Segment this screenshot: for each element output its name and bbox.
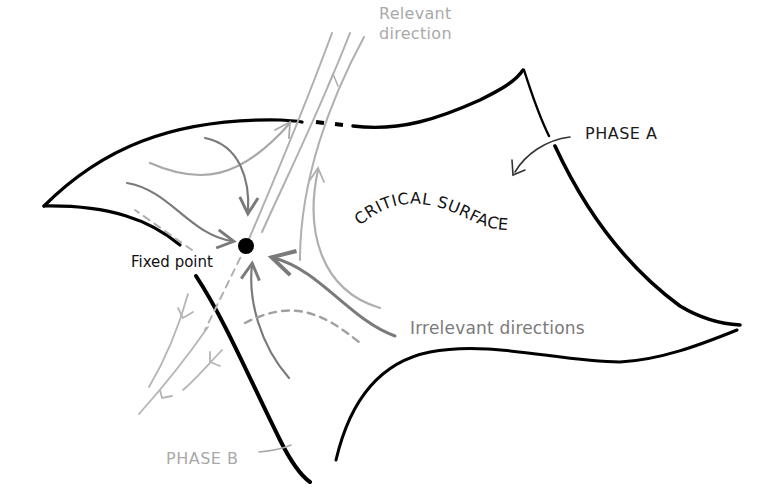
phase-b-line-2 bbox=[139, 327, 208, 414]
surface-edge-right-upper bbox=[524, 70, 549, 136]
phase-b-flow-lines bbox=[139, 294, 291, 452]
critical-surface-label: CRITICAL SURFACE bbox=[351, 189, 510, 235]
phase-b-line-1 bbox=[149, 294, 188, 387]
relevant-line-2 bbox=[262, 33, 350, 232]
surface-edge-bottom-right bbox=[336, 330, 737, 460]
relevant-label-line-2: direction bbox=[379, 24, 452, 44]
flow-curve-upper-left bbox=[150, 122, 290, 175]
irrelevant-arrow-bottom bbox=[251, 265, 289, 378]
surface-edge-top-right bbox=[353, 70, 523, 127]
fixed-point-label: Fixed point bbox=[131, 255, 213, 270]
critical-surface-diagram: CRITICAL SURFACE Relevant direction PHAS… bbox=[0, 0, 764, 499]
fixed-point-dot bbox=[238, 238, 254, 254]
relevant-flow-lines bbox=[135, 33, 364, 330]
phase-b-line-3 bbox=[183, 350, 222, 390]
phase-b-label: PHASE B bbox=[166, 451, 238, 467]
relevant-line-3 bbox=[300, 37, 364, 260]
diagram-canvas: CRITICAL SURFACE bbox=[0, 0, 764, 499]
phase-b-arrow-2 bbox=[160, 390, 172, 398]
irrelevant-directions-label: Irrelevant directions bbox=[410, 320, 585, 337]
irrelevant-arrow-left bbox=[127, 183, 232, 241]
surface-edge-left bbox=[44, 206, 180, 245]
relevant-label-line-1: Relevant bbox=[379, 4, 452, 24]
surface-edge-right-lower bbox=[555, 146, 740, 325]
surface-edge-top-left bbox=[44, 120, 302, 206]
phase-a-label: PHASE A bbox=[585, 126, 657, 142]
flow-curve-right-up bbox=[310, 168, 380, 308]
surface-edge-top-gap bbox=[316, 122, 343, 125]
relevant-arrow-up bbox=[328, 74, 338, 86]
irrelevant-dashed bbox=[245, 311, 360, 343]
relevant-direction-label: Relevant direction bbox=[379, 4, 452, 44]
